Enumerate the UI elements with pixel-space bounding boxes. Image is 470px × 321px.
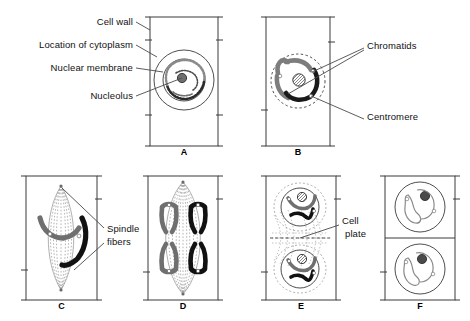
label-chromatids: Chromatids [367, 40, 417, 51]
panel-letter-f: F [385, 301, 455, 311]
panel-letter-c: C [26, 301, 97, 311]
mitosis-diagram: Cell wall Location of cytoplasm Nuclear … [0, 0, 470, 321]
label-cell-wall: Cell wall [8, 16, 133, 27]
label-centromere: Centromere [367, 111, 418, 122]
panel-C-cell [21, 176, 102, 300]
label-nuclear-membrane: Nuclear membrane [8, 62, 133, 73]
panel-letter-a: A [150, 147, 218, 157]
label-spindle-fibers-line2: fibers [107, 236, 131, 247]
panel-letter-b: B [266, 147, 330, 157]
label-location-of-cytoplasm: Location of cytoplasm [0, 39, 133, 50]
panel-B-cell [261, 17, 335, 146]
label-spindle-fibers-line1: Spindle [107, 223, 139, 234]
panel-A-cell [145, 17, 223, 146]
label-cell-plate-line2: plate [345, 228, 366, 239]
panel-letter-d: D [148, 301, 218, 311]
panel-F-cell [380, 176, 460, 300]
panel-letter-e: E [266, 301, 336, 311]
panel-D-cell [143, 176, 223, 300]
label-nucleolus: Nucleolus [8, 90, 133, 101]
label-cell-plate-line1: Cell [342, 215, 359, 226]
